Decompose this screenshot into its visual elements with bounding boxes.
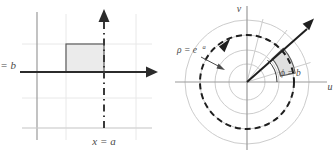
rho-equals-exp-a-label: ρ = e <box>176 45 197 55</box>
phi-equals-b-ray-arrowhead <box>303 19 314 31</box>
polar-diagram: v u ρ = e a ϕ = b <box>167 0 334 153</box>
shaded-rectangle <box>66 44 104 72</box>
y-equals-b-label: y = b <box>0 59 16 71</box>
v-axis-label: v <box>237 3 242 14</box>
vertical-axis-arrowhead <box>99 9 110 22</box>
figure-root: y = b x = a <box>0 0 334 153</box>
phi-equals-b-label: ϕ = b <box>280 68 301 78</box>
horizontal-axis-arrowhead <box>146 67 158 78</box>
cartesian-diagram: y = b x = a <box>0 0 167 153</box>
cartesian-panel: y = b x = a <box>0 0 167 153</box>
rho-equals-exp-a-exponent: a <box>203 43 206 50</box>
u-axis-label: u <box>328 81 333 92</box>
x-equals-a-label: x = a <box>91 135 116 147</box>
polar-panel: v u ρ = e a ϕ = b <box>167 0 334 153</box>
grid-lines <box>22 14 152 140</box>
